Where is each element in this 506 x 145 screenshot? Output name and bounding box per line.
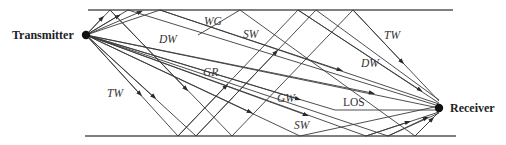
- label-gw: GW: [277, 92, 296, 104]
- label-tw-right: TW: [384, 29, 401, 41]
- receiver-node: [435, 104, 443, 112]
- label-wg: WG: [204, 15, 223, 27]
- sw-bottom-ray-1: [86, 35, 439, 136]
- receiver-label: Receiver: [450, 101, 495, 115]
- label-dw-right: DW: [360, 57, 380, 69]
- label-dw-left: DW: [158, 33, 178, 45]
- gr-ray: [86, 35, 439, 136]
- label-sw-bottom: SW: [294, 119, 311, 131]
- sw-bottom-ray-2: [86, 35, 439, 136]
- label-tw-left: TW: [107, 87, 124, 99]
- label-los: LOS: [343, 96, 365, 108]
- sw-top-ray: [86, 10, 439, 106]
- transmitter-label: Transmitter: [12, 28, 74, 42]
- multipath-diagram: Transmitter Receiver WG DW SW GR TW GW L…: [0, 0, 506, 145]
- label-sw-top: SW: [243, 28, 260, 40]
- label-gr: GR: [203, 66, 218, 78]
- transmitter-node: [82, 31, 90, 39]
